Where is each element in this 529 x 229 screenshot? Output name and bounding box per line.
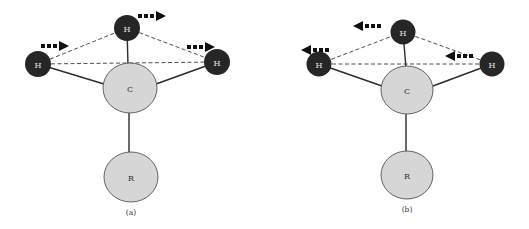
arrow-dash xyxy=(41,44,45,48)
arrow-head-icon xyxy=(353,21,363,31)
dashed-edge-left-top xyxy=(319,32,403,64)
arrow-dash xyxy=(313,48,317,52)
arrow-dash xyxy=(325,48,329,52)
arrow-head-icon xyxy=(59,41,69,51)
arrow-dash xyxy=(469,54,473,58)
panel-a: C R H H H (a) xyxy=(25,11,230,217)
panel-label-b: (b) xyxy=(402,205,413,214)
motion-arrow-right-left-H xyxy=(41,41,69,51)
arrow-dash xyxy=(377,24,381,28)
hydrogen-label-left: H xyxy=(35,61,42,70)
arrow-dash xyxy=(463,54,467,58)
panel-b: C R H H H (b) xyxy=(301,20,505,214)
motion-arrow-right-top-H xyxy=(138,11,166,21)
arrow-head-icon xyxy=(301,45,311,55)
arrow-dash xyxy=(53,44,57,48)
carbon-label: C xyxy=(127,85,133,94)
arrow-head-icon xyxy=(156,11,166,21)
hydrogen-label-top: H xyxy=(124,25,131,34)
arrow-dash xyxy=(457,54,461,58)
motion-arrow-right-right-H xyxy=(187,42,215,52)
hydrogen-label-right: H xyxy=(489,61,496,70)
hydrogen-label-left: H xyxy=(316,61,323,70)
arrow-dash xyxy=(47,44,51,48)
panel-label-a: (a) xyxy=(126,208,136,217)
r-group-label: R xyxy=(404,172,411,181)
arrow-dash xyxy=(199,45,203,49)
dashed-edge-top-right xyxy=(403,32,492,64)
hydrogen-label-top: H xyxy=(400,29,407,38)
methyl-rotation-diagram: C R H H H (a) C R H H H (b) xyxy=(0,0,529,229)
arrow-dash xyxy=(144,14,148,18)
arrow-dash xyxy=(187,45,191,49)
arrow-dash xyxy=(150,14,154,18)
arrow-dash xyxy=(365,24,369,28)
dashed-edge-left-top xyxy=(38,28,127,64)
arrow-dash xyxy=(193,45,197,49)
carbon-label: C xyxy=(404,87,410,96)
arrow-dash xyxy=(319,48,323,52)
dashed-edge-top-right xyxy=(127,28,217,62)
r-group-label: R xyxy=(128,174,135,183)
motion-arrow-left-top-H xyxy=(353,21,381,31)
arrow-dash xyxy=(371,24,375,28)
arrow-dash xyxy=(138,14,142,18)
arrow-head-icon xyxy=(445,51,455,61)
hydrogen-label-right: H xyxy=(214,59,221,68)
